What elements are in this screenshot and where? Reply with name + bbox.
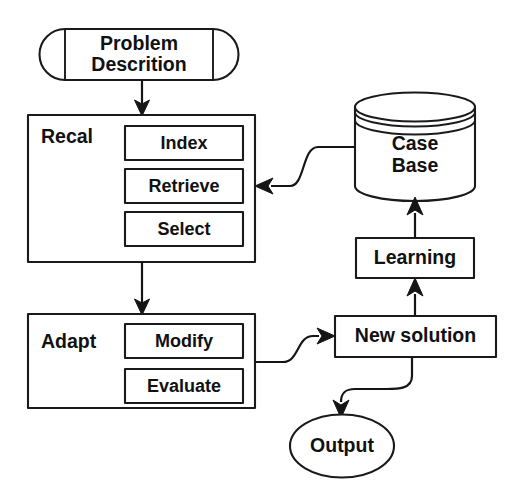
problem-description-label-line1: Problem	[100, 32, 178, 54]
select-label: Select	[157, 219, 210, 239]
node-learning[interactable]: Learning	[356, 238, 474, 278]
node-evaluate[interactable]: Evaluate	[125, 369, 243, 403]
retrieve-label: Retrieve	[148, 176, 219, 196]
new-solution-label: New solution	[355, 324, 476, 346]
edge-newsolution-to-output	[333, 357, 412, 418]
diagram-canvas: Problem Descrition Recal Index Retrieve …	[0, 0, 521, 500]
adapt-group-label: Adapt	[41, 330, 97, 352]
edge-newsolution-to-learning	[407, 278, 423, 316]
node-modify[interactable]: Modify	[125, 324, 243, 358]
learning-label: Learning	[374, 246, 456, 268]
node-retrieve[interactable]: Retrieve	[125, 169, 243, 203]
case-base-label-line1: Case	[392, 132, 439, 154]
edge-learning-to-casebase	[407, 197, 423, 238]
cbr-cycle-diagram: Problem Descrition Recal Index Retrieve …	[0, 0, 521, 500]
evaluate-label: Evaluate	[147, 376, 221, 396]
edge-newsolution-to-learning-arrowhead	[407, 278, 423, 296]
edge-adapt-to-newsolution-path	[255, 336, 319, 362]
node-new-solution[interactable]: New solution	[335, 316, 496, 357]
recall-group-label: Recal	[41, 125, 93, 147]
edge-casebase-to-retrieve	[255, 147, 355, 194]
edge-newsolution-to-output-path	[341, 357, 412, 402]
node-problem-description[interactable]: Problem Descrition	[40, 29, 239, 80]
edge-casebase-to-retrieve-arrowhead	[255, 178, 273, 194]
problem-description-label-line2: Descrition	[91, 53, 186, 75]
node-select[interactable]: Select	[125, 212, 243, 246]
edge-adapt-to-newsolution	[255, 328, 335, 362]
edge-casebase-to-retrieve-path	[271, 147, 355, 186]
node-case-base[interactable]: Case Base	[355, 93, 475, 202]
edge-problem-to-recall	[135, 80, 150, 116]
edge-adapt-to-newsolution-arrowhead	[317, 328, 335, 344]
node-adapt-group[interactable]: Adapt Modify Evaluate	[28, 314, 255, 408]
output-label: Output	[310, 434, 374, 456]
modify-label: Modify	[155, 331, 213, 351]
node-index[interactable]: Index	[125, 126, 243, 160]
case-base-label-line2: Base	[392, 154, 439, 176]
node-recall-group[interactable]: Recal Index Retrieve Select	[28, 115, 255, 262]
case-base-cylinder-top	[355, 93, 475, 122]
index-label: Index	[160, 133, 207, 153]
node-output[interactable]: Output	[290, 415, 394, 478]
edge-recall-to-adapt	[135, 262, 150, 315]
